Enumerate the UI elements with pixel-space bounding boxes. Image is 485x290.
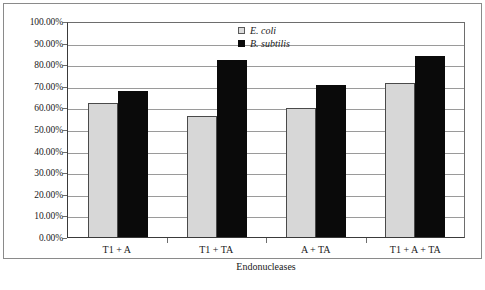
y-axis-tick-label: 80.00%	[6, 60, 63, 70]
y-axis-tick-label: 100.00%	[6, 17, 63, 27]
chart-figure: 100.00%90.00%80.00%70.00%60.00%50.00%40.…	[0, 0, 485, 290]
y-axis-tick-label: 20.00%	[6, 190, 63, 200]
plot-area	[67, 22, 465, 238]
legend-item: B. subtilis	[238, 37, 348, 50]
bar-ecoli	[187, 116, 217, 237]
y-axis-tick-label: 70.00%	[6, 82, 63, 92]
y-axis-tick-label: 0.00%	[6, 233, 63, 243]
bar-group	[266, 23, 365, 237]
legend-label: E. coli	[250, 25, 276, 36]
bar-bsubtilis	[217, 60, 247, 237]
y-axis-tick-label: 50.00%	[6, 125, 63, 135]
y-axis-tick-label: 30.00%	[6, 168, 63, 178]
bar-ecoli	[385, 83, 415, 237]
x-axis-title: Endonucleases	[67, 260, 465, 273]
bar-group	[68, 23, 167, 237]
bar-group	[365, 23, 464, 237]
x-axis-tick-label: A + TA	[266, 243, 366, 259]
x-axis-tick-label: T1 + A + TA	[366, 243, 466, 259]
bar-bsubtilis	[118, 91, 148, 237]
bar-bsubtilis	[415, 56, 445, 237]
legend-item: E. coli	[238, 24, 348, 37]
chart-legend: E. coliB. subtilis	[238, 24, 348, 50]
x-axis-tick-label: T1 + A	[67, 243, 167, 259]
y-axis-tick-labels: 100.00%90.00%80.00%70.00%60.00%50.00%40.…	[6, 16, 63, 244]
bar-ecoli	[286, 108, 316, 237]
x-axis-tick-label: T1 + TA	[167, 243, 267, 259]
y-axis-tick-label: 60.00%	[6, 103, 63, 113]
x-axis-tick-labels: T1 + AT1 + TAA + TAT1 + A + TA	[67, 243, 465, 259]
bar-bsubtilis	[316, 85, 346, 237]
y-axis-tick-label: 10.00%	[6, 211, 63, 221]
legend-swatch-ecoli-icon	[238, 27, 245, 34]
y-axis-tick-label: 90.00%	[6, 39, 63, 49]
y-axis-tick-label: 40.00%	[6, 147, 63, 157]
bar-group	[167, 23, 266, 237]
legend-swatch-bsubtilis-icon	[238, 40, 245, 47]
bar-ecoli	[88, 103, 118, 237]
legend-label: B. subtilis	[250, 38, 290, 49]
bar-groups-container	[68, 23, 464, 237]
